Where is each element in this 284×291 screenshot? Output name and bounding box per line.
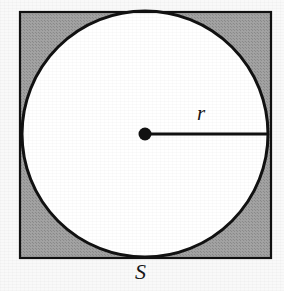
center-point-dot	[139, 128, 152, 141]
side-length-label: S	[135, 261, 146, 283]
geometry-figure: r S	[0, 0, 284, 291]
radius-label: r	[197, 103, 205, 124]
circle-in-square-svg	[0, 0, 284, 291]
